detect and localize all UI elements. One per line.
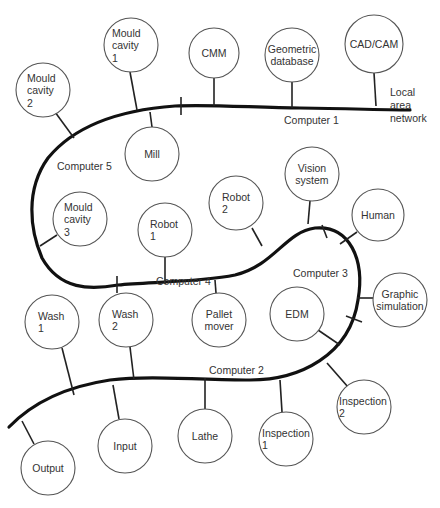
output-connector <box>22 421 34 444</box>
computer-label: Computer 5 <box>57 160 112 172</box>
wash-2-label: Wash <box>112 308 139 320</box>
input-node: Input <box>98 419 152 473</box>
wash-2-connector <box>130 347 134 380</box>
inspection-2-connector <box>327 363 348 387</box>
lathe-node: Lathe <box>178 409 232 463</box>
mould-cavity-3-label: Mould <box>64 201 93 213</box>
inspection-2-circle <box>337 380 391 434</box>
cmm-label: CMM <box>201 47 226 59</box>
vision-system-label: system <box>295 174 329 186</box>
computer-label: Computer 1 <box>284 114 339 126</box>
mould-cavity-3-label: 3 <box>64 226 70 238</box>
wash-1-label: 1 <box>38 322 44 334</box>
robot-2-node: Robot2 <box>209 176 263 230</box>
graphic-simulation-node: Graphicsimulation <box>373 273 427 327</box>
lan-diagram: Mouldcavity1Mouldcavity2MillMouldcavity3… <box>0 0 440 508</box>
robot-2-label: 2 <box>222 203 228 215</box>
inspection-1-label: Inspection <box>262 427 310 439</box>
mould-cavity-2-label: 2 <box>27 97 33 109</box>
geometric-database-label: database <box>270 55 313 67</box>
wash-1-node: Wash1 <box>25 295 79 349</box>
edm-label: EDM <box>285 308 308 320</box>
mould-cavity-1-label: cavity <box>112 39 140 51</box>
network-label: area <box>390 99 411 111</box>
wash-1-label: Wash <box>38 310 65 322</box>
mould-cavity-1-label: 1 <box>112 52 118 64</box>
input-connector <box>113 385 119 419</box>
mould-cavity-2-node: Mouldcavity2 <box>16 63 70 117</box>
cmm-node: CMM <box>189 28 239 78</box>
human-node: Human <box>352 189 404 241</box>
inspection-2-label: Inspection <box>339 395 387 407</box>
robot-2-circle <box>209 176 263 230</box>
pallet-mover-label: mover <box>204 320 234 332</box>
vision-system-connector <box>308 201 310 224</box>
pallet-mover-connector <box>215 280 216 293</box>
edm-connector <box>318 330 340 345</box>
computer-label: Computer 3 <box>293 267 348 279</box>
pallet-mover-label: Pallet <box>206 308 232 320</box>
output-label: Output <box>32 462 64 474</box>
vision-system-label: Vision <box>298 162 327 174</box>
wash-1-connector <box>62 348 74 395</box>
computer-label: Computer 2 <box>209 364 264 376</box>
computer-label: Computer 4 <box>156 275 211 287</box>
cad-cam-node: CAD/CAM <box>345 15 403 73</box>
wash-1-circle <box>25 295 79 349</box>
mould-cavity-1-node: Mouldcavity1 <box>104 18 158 72</box>
network-label: network <box>390 112 428 124</box>
geometric-database-node: Geometricdatabase <box>265 28 319 82</box>
lathe-label: Lathe <box>192 430 218 442</box>
mould-cavity-1-label: Mould <box>112 27 141 39</box>
output-node: Output <box>21 441 75 495</box>
pallet-mover-node: Palletmover <box>192 293 246 347</box>
robot-2-label: Robot <box>222 191 250 203</box>
graphic-simulation-label: simulation <box>376 300 423 312</box>
inspection-2-node: Inspection2 <box>337 380 391 434</box>
mill-connector <box>150 112 152 127</box>
edm-node: EDM <box>270 287 324 341</box>
mill-label: Mill <box>144 148 160 160</box>
mould-cavity-3-node: Mouldcavity3 <box>53 192 107 246</box>
mould-cavity-2-connector <box>55 112 74 138</box>
robot-1-label: Robot <box>150 218 178 230</box>
mould-cavity-2-label: cavity <box>27 84 55 96</box>
robot-2-connector <box>252 228 262 246</box>
vision-system-node: Visionsystem <box>285 147 339 201</box>
mould-cavity-3-label: cavity <box>64 213 92 225</box>
inspection-2-label: 2 <box>339 407 345 419</box>
inspection-1-connector <box>280 380 282 412</box>
human-label: Human <box>361 209 395 221</box>
robot-1-label: 1 <box>150 230 156 242</box>
mould-cavity-3-connector <box>40 235 57 246</box>
wash-2-node: Wash2 <box>99 293 153 347</box>
cad-cam-connector <box>374 73 376 106</box>
input-label: Input <box>113 440 136 452</box>
inspection-1-label: 1 <box>262 439 268 451</box>
geometric-database-label: Geometric <box>268 43 316 55</box>
robot-1-node: Robot1 <box>138 203 192 257</box>
cad-cam-label: CAD/CAM <box>350 38 398 50</box>
mould-cavity-1-connector <box>130 72 137 110</box>
inspection-1-node: Inspection1 <box>259 412 313 466</box>
mould-cavity-2-label: Mould <box>27 72 56 84</box>
wash-2-label: 2 <box>112 320 118 332</box>
network-label: Local <box>390 86 415 98</box>
graphic-simulation-label: Graphic <box>382 288 419 300</box>
wash-2-circle <box>99 293 153 347</box>
robot-1-circle <box>138 203 192 257</box>
mill-node: Mill <box>125 127 179 181</box>
